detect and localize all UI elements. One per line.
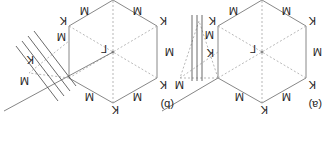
svg-text:K: K [308,79,316,91]
panel-label-b: (b) [161,99,174,111]
panel-b: Γ K K K K K K M M M M M M M (b) [4,0,174,116]
gamma-label-b: Γ [101,43,107,55]
panel-label-a: (a) [309,99,322,111]
svg-text:K: K [208,15,216,27]
brillouin-zone-figure: Γ K K K K K K M M M M M M M (a) Γ K K K … [0,0,334,141]
svg-text:M: M [229,5,238,17]
svg-text:M: M [313,46,322,58]
svg-text:K: K [206,47,214,59]
svg-text:M: M [133,5,142,17]
k-label-a: K [260,104,268,116]
svg-text:M: M [20,75,29,87]
svg-text:M: M [175,79,184,91]
svg-text:K: K [159,15,167,27]
svg-text:M: M [133,91,142,103]
svg-text:M: M [282,91,291,103]
svg-text:M: M [80,5,89,17]
svg-text:M: M [57,31,66,43]
gamma-label-a: Γ [250,43,256,55]
panel-a: Γ K K K K K K M M M M M M M (a) [162,0,322,116]
svg-text:K: K [59,15,67,27]
svg-text:K: K [111,104,119,116]
svg-text:M: M [205,29,214,41]
svg-text:K: K [308,15,316,27]
svg-text:M: M [85,91,94,103]
svg-text:M: M [235,91,244,103]
svg-text:K: K [26,54,34,66]
svg-text:M: M [282,5,291,17]
svg-text:K: K [159,79,167,91]
svg-text:M: M [165,46,174,58]
figure-canvas: Γ K K K K K K M M M M M M M (a) Γ K K K … [0,0,334,141]
